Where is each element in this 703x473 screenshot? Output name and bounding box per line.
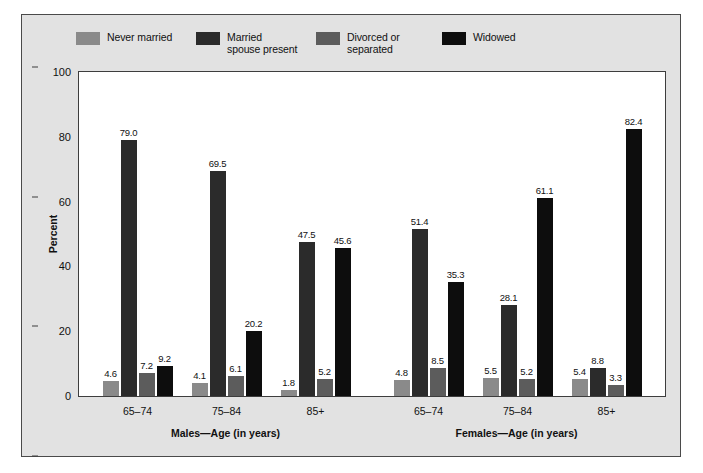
legend-label-married-spouse-present: Married spouse present xyxy=(227,31,297,56)
bar-value-label: 47.5 xyxy=(298,229,316,240)
y-axis-title: Percent xyxy=(47,215,59,254)
bar-value-label: 1.8 xyxy=(282,377,295,388)
bar-value-label: 6.1 xyxy=(229,363,242,374)
bar-value-label: 51.4 xyxy=(411,216,429,227)
x-axis-group-label: 65–74 xyxy=(414,405,443,417)
bar: 28.1 xyxy=(501,305,517,396)
x-axis-group-label: 85+ xyxy=(307,405,325,417)
bar-value-label: 61.1 xyxy=(536,185,554,196)
bar: 8.5 xyxy=(430,368,446,396)
bar: 61.1 xyxy=(537,198,553,396)
x-axis-group-label: 75–84 xyxy=(212,405,241,417)
bar-value-label: 20.2 xyxy=(245,318,263,329)
bar-value-label: 45.6 xyxy=(334,235,352,246)
bar: 20.2 xyxy=(246,331,262,396)
y-tick-label-40: 40 xyxy=(38,260,78,272)
legend-label-divorced-or-separated: Divorced or separated xyxy=(347,31,400,56)
bar-value-label: 5.2 xyxy=(318,366,331,377)
y-tick-mark-100 xyxy=(32,67,38,68)
bar: 47.5 xyxy=(299,242,315,396)
legend-item-never-married: Never married xyxy=(76,31,172,45)
bar: 82.4 xyxy=(626,129,642,396)
bar: 5.5 xyxy=(483,378,499,396)
bar-value-label: 9.2 xyxy=(158,353,171,364)
bar-value-label: 79.0 xyxy=(120,127,138,138)
legend-swatch-widowed xyxy=(442,32,466,45)
bar: 5.2 xyxy=(519,379,535,396)
bar: 6.1 xyxy=(228,376,244,396)
bar-value-label: 82.4 xyxy=(625,116,643,127)
bar: 4.1 xyxy=(192,383,208,396)
x-axis-section-label: Females—Age (in years) xyxy=(456,427,578,439)
bar: 4.6 xyxy=(103,381,119,396)
bar-value-label: 8.5 xyxy=(431,355,444,366)
y-tick-label-100: 100 xyxy=(38,66,78,78)
bar: 51.4 xyxy=(412,229,428,396)
x-axis-group-label: 85+ xyxy=(598,405,616,417)
bar-value-label: 4.8 xyxy=(395,367,408,378)
bar: 45.6 xyxy=(335,248,351,396)
y-tick-label-60: 60 xyxy=(38,196,78,208)
bar: 7.2 xyxy=(139,373,155,396)
bar: 3.3 xyxy=(608,385,624,396)
y-tick-mark-40 xyxy=(32,455,38,456)
bar-value-label: 5.2 xyxy=(520,366,533,377)
x-axis-group-label: 65–74 xyxy=(123,405,152,417)
legend-item-divorced-or-separated: Divorced or separated xyxy=(316,31,400,56)
bar-value-label: 3.3 xyxy=(609,372,622,383)
bar-value-label: 5.4 xyxy=(573,366,586,377)
bar: 5.4 xyxy=(572,379,588,396)
plot-wrapper: Percent 100806040200 4.679.07.29.24.169.… xyxy=(78,71,666,397)
bar: 79.0 xyxy=(121,140,137,396)
legend-item-widowed: Widowed xyxy=(442,31,516,45)
bar-value-label: 5.5 xyxy=(484,365,497,376)
legend-item-married-spouse-present: Married spouse present xyxy=(196,31,297,56)
bar: 5.2 xyxy=(317,379,333,396)
x-axis-section-label: Males—Age (in years) xyxy=(171,427,280,439)
y-tick-label-0: 0 xyxy=(38,390,78,402)
chart-legend: Never married Married spouse present Div… xyxy=(76,31,656,65)
bar-value-label: 4.6 xyxy=(104,368,117,379)
legend-label-never-married: Never married xyxy=(107,31,172,43)
bar-value-label: 7.2 xyxy=(140,360,153,371)
plot-area: 4.679.07.29.24.169.56.120.21.847.55.245.… xyxy=(78,71,666,397)
bar-value-label: 35.3 xyxy=(447,269,465,280)
bar: 1.8 xyxy=(281,390,297,396)
legend-label-widowed: Widowed xyxy=(473,31,516,43)
y-tick-label-80: 80 xyxy=(38,131,78,143)
x-axis-group-label: 75–84 xyxy=(503,405,532,417)
bar-value-label: 8.8 xyxy=(591,355,604,366)
legend-swatch-married-spouse-present xyxy=(196,32,220,45)
bar-value-label: 69.5 xyxy=(209,158,227,169)
legend-swatch-never-married xyxy=(76,32,100,45)
bar: 69.5 xyxy=(210,171,226,396)
y-tick-label-20: 20 xyxy=(38,325,78,337)
bar-value-label: 28.1 xyxy=(500,292,518,303)
bar: 9.2 xyxy=(157,366,173,396)
bar: 4.8 xyxy=(394,380,410,396)
bar-value-label: 4.1 xyxy=(193,370,206,381)
chart-figure: Never married Married spouse present Div… xyxy=(21,14,681,457)
legend-swatch-divorced-or-separated xyxy=(316,32,340,45)
bar: 35.3 xyxy=(448,282,464,396)
bar: 8.8 xyxy=(590,368,606,397)
